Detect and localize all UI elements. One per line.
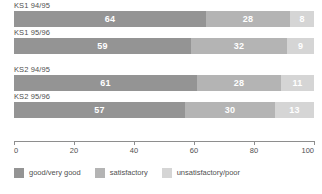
legend-item-label: good/very good [29, 168, 81, 178]
stacked-bar-chart: KS1 94/9564288KS1 95/9659329KS2 94/95612… [0, 0, 322, 194]
bar-segment: 32 [191, 38, 287, 54]
legend-swatch-icon [95, 168, 105, 178]
legend-swatch-icon [162, 168, 172, 178]
stacked-bar: 573013 [14, 102, 314, 118]
x-axis-line [14, 141, 314, 142]
bar-row: KS1 95/9659329 [0, 27, 322, 54]
bar-segment-value: 30 [225, 106, 235, 115]
bar-segment: 59 [14, 38, 191, 54]
bar-segment: 57 [14, 102, 185, 118]
x-axis-tick-label: 20 [70, 146, 78, 155]
bar-segment-value: 8 [299, 15, 304, 24]
legend-item: unsatisfactory/poor [162, 168, 240, 178]
bar-row-label: KS1 95/96 [0, 27, 322, 38]
bar-segment: 30 [185, 102, 275, 118]
chart-legend: good/very goodsatisfactoryunsatisfactory… [14, 168, 254, 178]
bar-segment-value: 57 [94, 106, 104, 115]
bar-segment-value: 28 [234, 79, 244, 88]
bar-segment-value: 32 [234, 42, 244, 51]
bar-row: KS2 94/95612811 [0, 64, 322, 91]
legend-item: good/very good [14, 168, 81, 178]
x-axis-tick [134, 141, 135, 145]
bar-segment-value: 28 [243, 15, 253, 24]
bar-segment: 8 [290, 11, 314, 27]
bar-segment: 64 [14, 11, 206, 27]
x-axis-tick [254, 141, 255, 145]
bar-segment-value: 13 [289, 106, 299, 115]
x-axis-tick-label: 80 [250, 146, 258, 155]
bar-segment: 61 [14, 75, 197, 91]
bar-row-label: KS2 94/95 [0, 64, 322, 75]
bar-segment-value: 11 [293, 79, 303, 88]
bar-segment-value: 61 [100, 79, 110, 88]
x-axis-tick [194, 141, 195, 145]
x-axis-tick-label: 60 [190, 146, 198, 155]
stacked-bar: 59329 [14, 38, 314, 54]
bar-segment: 9 [287, 38, 314, 54]
bar-segment-value: 59 [97, 42, 107, 51]
x-axis: 020406080100 [14, 141, 314, 161]
x-axis-tick [74, 141, 75, 145]
x-axis-tick [14, 141, 15, 145]
x-axis-tick-label: 40 [130, 146, 138, 155]
bar-row: KS2 95/96573013 [0, 91, 322, 118]
x-axis-tick [314, 141, 315, 145]
bar-segment: 13 [275, 102, 314, 118]
x-axis-tick-label: 0 [14, 146, 18, 155]
bar-segment-value: 64 [105, 15, 115, 24]
legend-swatch-icon [14, 168, 24, 178]
bar-row-label: KS1 94/95 [0, 0, 322, 11]
legend-item-label: satisfactory [110, 168, 148, 178]
bar-segment-value: 9 [298, 42, 303, 51]
bar-row: KS1 94/9564288 [0, 0, 322, 27]
bar-segment: 11 [281, 75, 314, 91]
bar-segment: 28 [206, 11, 290, 27]
stacked-bar: 612811 [14, 75, 314, 91]
x-axis-tick-label: 100 [301, 146, 314, 155]
bar-row-label: KS2 95/96 [0, 91, 322, 102]
bar-segment: 28 [197, 75, 281, 91]
stacked-bar: 64288 [14, 11, 314, 27]
legend-item: satisfactory [95, 168, 148, 178]
chart-rows: KS1 94/9564288KS1 95/9659329KS2 94/95612… [0, 0, 322, 118]
legend-item-label: unsatisfactory/poor [177, 168, 240, 178]
